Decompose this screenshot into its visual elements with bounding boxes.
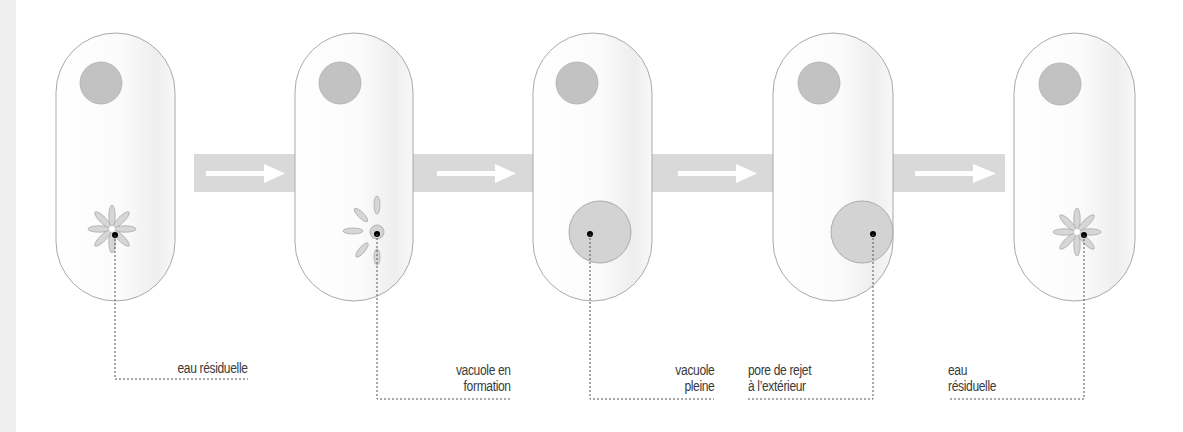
left-strip <box>0 0 16 432</box>
nucleus <box>556 62 598 104</box>
cell-stage-4 <box>748 33 893 399</box>
nucleus <box>1039 63 1081 105</box>
label-stage-5: eau résiduelle <box>948 362 996 394</box>
label-stage-2: vacuole en formation <box>456 362 511 394</box>
nucleus <box>319 62 361 104</box>
cell-stage-5 <box>948 33 1135 399</box>
residual-water-star-icon <box>1053 208 1101 256</box>
nucleus <box>80 62 122 104</box>
label-stage-1: eau résiduelle <box>178 360 248 376</box>
cell-stage-1 <box>56 33 248 379</box>
residual-water-star-icon <box>88 205 136 253</box>
cell-stage-3 <box>533 33 714 399</box>
label-stage-3: vacuole pleine <box>675 362 714 394</box>
contractile-vacuole-diagram: eau résiduelle vacuole en formation vacu… <box>0 0 1183 432</box>
label-stage-4: pore de rejet à l’extérieur <box>748 362 811 394</box>
full-vacuole <box>569 201 631 263</box>
cell-stage-2 <box>295 33 511 399</box>
expelling-vacuole <box>831 201 893 263</box>
nucleus <box>798 62 840 104</box>
